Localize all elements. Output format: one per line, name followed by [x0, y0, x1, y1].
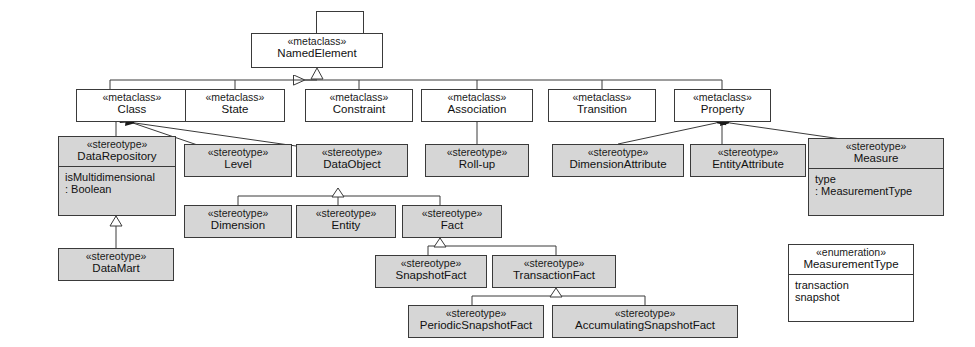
node-fact-keyword: «stereotype»: [408, 208, 496, 219]
node-accumulatingsnapshotfact-name: AccumulatingSnapshotFact: [558, 319, 732, 331]
node-periodicsnapshotfact[interactable]: «stereotype» PeriodicSnapshotFact: [408, 305, 544, 338]
node-class-keyword: «metaclass»: [82, 92, 182, 103]
node-constraint-keyword: «metaclass»: [311, 92, 407, 103]
edge-dimensionattribute-to-property: [618, 123, 716, 144]
node-state-head: «metaclass» State: [186, 90, 284, 119]
attribute-ismultidimensional: isMultidimensional: [65, 171, 169, 183]
node-property-name: Property: [680, 103, 765, 115]
node-datarepository[interactable]: «stereotype» DataRepository isMultidimen…: [58, 136, 176, 216]
node-measurementtype[interactable]: «enumeration» MeasurementType transactio…: [788, 244, 914, 322]
literal-transaction: transaction: [795, 279, 907, 291]
node-constraint-head: «metaclass» Constraint: [306, 90, 412, 119]
triangle-transactionfact: [550, 288, 562, 297]
node-measurementtype-head: «enumeration» MeasurementType: [789, 245, 913, 274]
node-accumulatingsnapshotfact[interactable]: «stereotype» AccumulatingSnapshotFact: [552, 305, 738, 338]
node-dimension-head: «stereotype» Dimension: [185, 206, 291, 235]
literal-snapshot: snapshot: [795, 291, 907, 303]
node-entity-keyword: «stereotype»: [302, 208, 390, 219]
node-rollup-head: «stereotype» Roll-up: [426, 145, 528, 174]
node-association-name: Association: [427, 103, 527, 115]
node-entityattribute-head: «stereotype» EntityAttribute: [691, 145, 805, 174]
node-datarepository-name: DataRepository: [64, 150, 170, 162]
node-datamart-head: «stereotype» DataMart: [59, 249, 173, 278]
node-datarepository-attributes: isMultidimensional : Boolean: [59, 166, 175, 200]
node-association-keyword: «metaclass»: [427, 92, 527, 103]
node-transactionfact-keyword: «stereotype»: [498, 258, 610, 269]
node-fact-head: «stereotype» Fact: [403, 206, 501, 235]
node-datarepository-head: «stereotype» DataRepository: [59, 137, 175, 166]
node-measurementtype-literals: transaction snapshot: [789, 274, 913, 308]
node-namedelement-name: NamedElement: [257, 47, 377, 59]
node-dataobject[interactable]: «stereotype» DataObject: [296, 144, 408, 177]
node-periodicsnapshotfact-head: «stereotype» PeriodicSnapshotFact: [409, 306, 543, 335]
node-dimension-name: Dimension: [190, 219, 286, 231]
node-accumulatingsnapshotfact-head: «stereotype» AccumulatingSnapshotFact: [553, 306, 737, 335]
node-transition-head: «metaclass» Transition: [549, 90, 655, 119]
node-level-head: «stereotype» Level: [185, 145, 291, 174]
node-datamart-keyword: «stereotype»: [64, 251, 168, 262]
node-measure[interactable]: «stereotype» Measure type : MeasurementT…: [808, 138, 944, 216]
attribute-ismultidimensional-type: : Boolean: [65, 183, 169, 195]
node-dimension[interactable]: «stereotype» Dimension: [184, 205, 292, 238]
node-property-keyword: «metaclass»: [680, 92, 765, 103]
node-measurementtype-keyword: «enumeration»: [794, 247, 908, 258]
node-dimensionattribute-keyword: «stereotype»: [558, 147, 678, 158]
node-dataobject-keyword: «stereotype»: [302, 147, 402, 158]
node-measure-keyword: «stereotype»: [814, 141, 938, 152]
node-rollup[interactable]: «stereotype» Roll-up: [425, 144, 529, 177]
node-snapshotfact-name: SnapshotFact: [381, 269, 481, 281]
node-datamart[interactable]: «stereotype» DataMart: [58, 248, 174, 281]
node-fact[interactable]: «stereotype» Fact: [402, 205, 502, 238]
node-constraint[interactable]: «metaclass» Constraint: [305, 89, 413, 122]
node-dimensionattribute-head: «stereotype» DimensionAttribute: [553, 145, 683, 174]
attribute-type: type: [815, 173, 937, 185]
node-measure-name: Measure: [814, 152, 938, 164]
node-transition-keyword: «metaclass»: [554, 92, 650, 103]
node-transition[interactable]: «metaclass» Transition: [548, 89, 656, 122]
node-state[interactable]: «metaclass» State: [185, 89, 285, 122]
node-measurementtype-name: MeasurementType: [794, 258, 908, 270]
node-rollup-keyword: «stereotype»: [431, 147, 523, 158]
node-dimensionattribute-name: DimensionAttribute: [558, 158, 678, 170]
node-accumulatingsnapshotfact-keyword: «stereotype»: [558, 308, 732, 319]
node-namedelement[interactable]: «metaclass» NamedElement: [251, 33, 383, 68]
node-dimension-keyword: «stereotype»: [190, 208, 286, 219]
triangle-datarepository: [110, 216, 122, 226]
node-class-name: Class: [82, 103, 182, 115]
node-level-keyword: «stereotype»: [190, 147, 286, 158]
node-property[interactable]: «metaclass» Property: [674, 89, 771, 122]
node-measure-attributes: type : MeasurementType: [809, 168, 943, 202]
node-transition-name: Transition: [554, 103, 650, 115]
node-entityattribute[interactable]: «stereotype» EntityAttribute: [690, 144, 806, 177]
triangle-dataobject: [332, 188, 344, 197]
node-level-name: Level: [190, 158, 286, 170]
node-constraint-name: Constraint: [311, 103, 407, 115]
attribute-type-kind: : MeasurementType: [815, 185, 937, 197]
node-namedelement-head: «metaclass» NamedElement: [252, 34, 382, 63]
node-fact-name: Fact: [408, 219, 496, 231]
node-snapshotfact-keyword: «stereotype»: [381, 258, 481, 269]
node-transactionfact-head: «stereotype» TransactionFact: [493, 256, 615, 285]
node-transactionfact[interactable]: «stereotype» TransactionFact: [492, 255, 616, 288]
node-entityattribute-keyword: «stereotype»: [696, 147, 800, 158]
node-property-head: «metaclass» Property: [675, 90, 770, 119]
uml-diagram-canvas: «metaclass» NamedElement «metaclass» Cla…: [0, 0, 975, 347]
node-state-name: State: [191, 103, 279, 115]
node-class[interactable]: «metaclass» Class: [76, 89, 188, 122]
node-snapshotfact-head: «stereotype» SnapshotFact: [376, 256, 486, 285]
node-entity[interactable]: «stereotype» Entity: [296, 205, 396, 238]
triangle-fact: [434, 238, 446, 247]
node-association[interactable]: «metaclass» Association: [421, 89, 533, 122]
node-dimensionattribute[interactable]: «stereotype» DimensionAttribute: [552, 144, 684, 177]
node-namedelement-keyword: «metaclass»: [257, 36, 377, 47]
node-rollup-name: Roll-up: [431, 158, 523, 170]
node-entity-name: Entity: [302, 219, 390, 231]
node-snapshotfact[interactable]: «stereotype» SnapshotFact: [375, 255, 487, 288]
node-state-keyword: «metaclass»: [191, 92, 279, 103]
node-association-head: «metaclass» Association: [422, 90, 532, 119]
node-measure-head: «stereotype» Measure: [809, 139, 943, 168]
node-datamart-name: DataMart: [64, 262, 168, 274]
node-level[interactable]: «stereotype» Level: [184, 144, 292, 177]
node-dataobject-name: DataObject: [302, 158, 402, 170]
node-datarepository-keyword: «stereotype»: [64, 139, 170, 150]
